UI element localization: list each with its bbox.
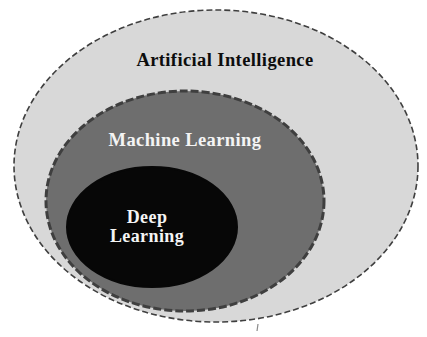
machine-learning-label: Machine Learning — [109, 130, 262, 150]
diagram-canvas: Artificial Intelligence Machine Learning… — [0, 0, 427, 337]
deep-learning-label-line1: Deep — [127, 207, 168, 227]
stray-tick-mark — [257, 324, 258, 331]
deep-learning-label-line2: Learning — [110, 226, 184, 246]
nested-ellipse-diagram: Artificial Intelligence Machine Learning… — [0, 0, 427, 337]
artificial-intelligence-label: Artificial Intelligence — [136, 50, 313, 70]
